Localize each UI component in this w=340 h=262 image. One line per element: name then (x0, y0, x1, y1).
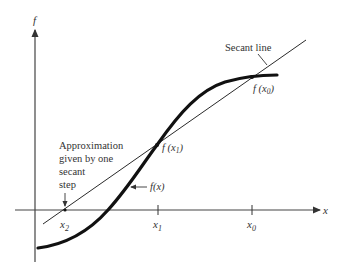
tick-label-x2: x2 (59, 218, 69, 233)
x-axis-label: x (322, 204, 328, 216)
tick-label-x1: x1 (152, 218, 162, 233)
secant-pointer (258, 54, 267, 65)
y-axis-label: f (33, 14, 38, 26)
point-f-x1 (155, 143, 159, 147)
secant-method-diagram: f x x2 x1 x0 f (x1) f (x0) Secant line f… (0, 0, 340, 262)
curve-label: f(x) (150, 181, 165, 193)
point-f-x0 (250, 75, 254, 79)
secant-line-label: Secant line (225, 42, 272, 53)
label-f-x0: f (x0) (253, 83, 274, 96)
point-x2 (63, 208, 66, 211)
label-f-x1: f (x1) (162, 142, 183, 155)
approximation-label: Approximation given by one secant step (59, 140, 126, 190)
secant-line (43, 40, 306, 224)
tick-label-x0: x0 (246, 218, 256, 233)
